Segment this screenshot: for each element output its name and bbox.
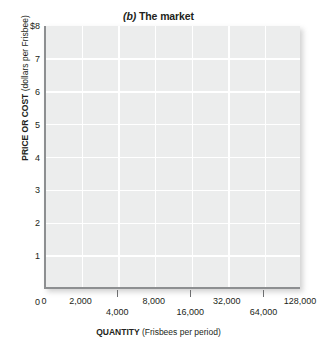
chart-title-label: (b) bbox=[123, 10, 136, 22]
y-axis-title-main: PRICE OR COST bbox=[20, 94, 30, 161]
horizontal-gridline bbox=[46, 190, 300, 192]
x-axis-tick-label: 2,000 bbox=[69, 296, 92, 306]
chart-title: (b) The market bbox=[0, 10, 317, 22]
x-axis-tick-label: 128,000 bbox=[284, 296, 317, 306]
plot-area bbox=[44, 26, 300, 289]
x-axis-title-main: QUANTITY bbox=[96, 327, 139, 337]
horizontal-gridline bbox=[46, 58, 300, 60]
x-axis-tick-label: 16,000 bbox=[177, 307, 205, 317]
x-axis-tick-label: 64,000 bbox=[250, 307, 278, 317]
x-axis-tick-labels: 02,0004,0008,00016,00032,00064,000128,00… bbox=[0, 296, 317, 322]
x-axis-tick-label: 8,000 bbox=[142, 296, 165, 306]
y-axis-tick-label: 1 bbox=[0, 251, 40, 261]
chart-title-main: The market bbox=[139, 10, 194, 22]
horizontal-gridline bbox=[46, 157, 300, 159]
horizontal-gridline bbox=[46, 124, 300, 126]
y-axis-title: PRICE OR COST (dollars per Frisbee) bbox=[20, 0, 30, 188]
vertical-gridline bbox=[228, 26, 230, 287]
chart-figure: (b) The market $876543210 PRICE OR COST … bbox=[0, 0, 317, 347]
y-axis-title-unit: (dollars per Frisbee) bbox=[20, 15, 30, 91]
x-axis-title: QUANTITY (Frisbees per period) bbox=[0, 327, 317, 337]
vertical-gridline bbox=[118, 26, 120, 287]
horizontal-gridline bbox=[46, 255, 300, 257]
x-axis-tick-label: 32,000 bbox=[213, 296, 241, 306]
y-axis-tick-label: 2 bbox=[0, 218, 40, 228]
x-axis-tick-label: 4,000 bbox=[106, 307, 129, 317]
x-axis-origin-label: 0 bbox=[41, 296, 46, 306]
horizontal-gridline bbox=[46, 91, 300, 93]
vertical-gridline bbox=[155, 26, 157, 287]
x-axis-title-unit: (Frisbees per period) bbox=[142, 327, 221, 337]
vertical-gridline bbox=[265, 26, 267, 287]
vertical-gridline bbox=[192, 26, 194, 287]
vertical-gridline bbox=[82, 26, 84, 287]
horizontal-gridline bbox=[46, 223, 300, 225]
